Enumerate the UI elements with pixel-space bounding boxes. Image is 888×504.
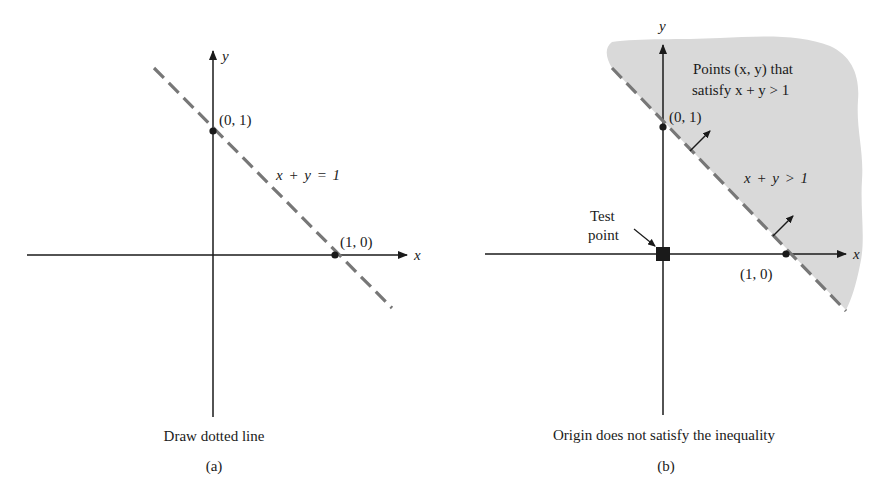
test-point-label-line-2: point bbox=[588, 227, 620, 243]
test-point-label-line-1: Test bbox=[590, 208, 616, 224]
point-0-1 bbox=[659, 123, 666, 130]
figure-canvas: y x (0, 1) (1, 0) x + y = 1 Draw dotted … bbox=[0, 0, 888, 504]
shaded-solution-region bbox=[607, 36, 863, 310]
inequality-label: x + y > 1 bbox=[743, 170, 809, 186]
point-1-0-label: (1, 0) bbox=[740, 266, 773, 283]
panel-a: y x (0, 1) (1, 0) x + y = 1 Draw dotted … bbox=[27, 48, 421, 475]
test-point-marker bbox=[656, 247, 670, 261]
point-0-1 bbox=[209, 127, 216, 134]
point-0-1-label: (0, 1) bbox=[669, 109, 702, 126]
panel-b: y x (0, 1) (1, 0) Points (x, y) that sat… bbox=[485, 18, 863, 475]
y-axis-label: y bbox=[657, 18, 666, 34]
line-equation-label: x + y = 1 bbox=[275, 167, 341, 183]
region-label-line-1: Points (x, y) that bbox=[693, 61, 794, 78]
y-axis-label: y bbox=[220, 48, 229, 64]
region-label-line-2: satisfy x + y > 1 bbox=[692, 82, 789, 98]
x-axis-label: x bbox=[852, 246, 860, 262]
caption-b: Origin does not satisfy the inequality bbox=[553, 427, 776, 443]
point-1-0 bbox=[782, 250, 789, 257]
sub-label-b: (b) bbox=[657, 458, 675, 475]
sub-label-a: (a) bbox=[206, 458, 223, 475]
point-1-0 bbox=[331, 251, 338, 258]
x-axis-label: x bbox=[413, 247, 421, 263]
caption-a: Draw dotted line bbox=[164, 428, 265, 444]
boundary-dashed-line bbox=[154, 68, 392, 308]
point-0-1-label: (0, 1) bbox=[219, 112, 252, 129]
test-point-pointer-arrow bbox=[634, 229, 655, 246]
point-1-0-label: (1, 0) bbox=[340, 234, 373, 251]
